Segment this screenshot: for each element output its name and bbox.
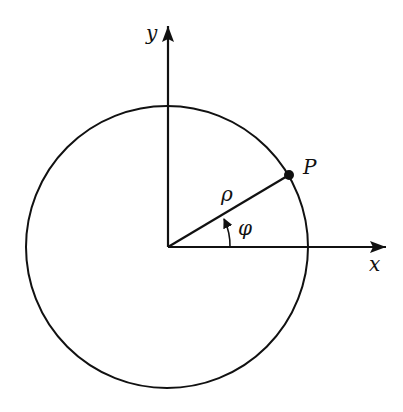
point-p bbox=[284, 170, 294, 180]
radius-label: ρ bbox=[220, 182, 233, 206]
point-label: P bbox=[302, 155, 317, 179]
x-axis-label: x bbox=[369, 252, 380, 276]
angle-label: φ bbox=[238, 216, 252, 240]
y-axis-label: y bbox=[145, 21, 158, 45]
polar-coordinates-diagram: y x P ρ φ bbox=[0, 0, 403, 412]
angle-arc bbox=[224, 219, 230, 247]
